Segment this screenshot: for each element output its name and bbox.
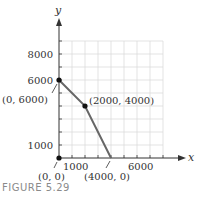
tick-x-6000: 6000 (128, 161, 153, 172)
point-2000-4000 (82, 103, 87, 108)
label-0-6000: (0, 6000) (2, 94, 48, 105)
tick-y-8000: 8000 (28, 49, 53, 60)
tick-y-6000: 6000 (28, 75, 53, 86)
x-axis-arrow-icon (178, 155, 186, 161)
label-2000-4000: (2000, 4000) (89, 95, 154, 106)
figure-chart: y x 8000 6000 1000 1000 6000 (0, 6000) (… (0, 0, 208, 199)
tick-y-1000: 1000 (28, 140, 53, 151)
label-origin: (0, 0) (38, 171, 65, 182)
y-axis-label: y (54, 4, 62, 17)
point-origin (56, 155, 61, 160)
figure-caption: FIGURE 5.29 (2, 182, 70, 193)
point-0-6000 (56, 77, 61, 82)
label-4000-0: (4000, 0) (84, 171, 130, 182)
y-axis-arrow-icon (56, 18, 62, 26)
axes (59, 24, 180, 158)
x-axis-label: x (188, 151, 195, 164)
